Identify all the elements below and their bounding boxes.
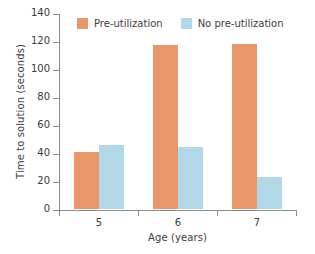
y-tick-label: 20 <box>37 175 50 186</box>
y-tick-label: 140 <box>31 7 50 18</box>
bar-chart-figure: Time to solution (seconds) Age (years) 0… <box>0 0 315 254</box>
y-tick: 140 <box>53 14 59 15</box>
y-tick: 100 <box>53 70 59 71</box>
x-tick-label: 5 <box>79 217 119 228</box>
bar <box>74 152 99 209</box>
x-tick <box>296 210 297 216</box>
x-axis-title: Age (years) <box>60 232 295 243</box>
x-tick-label: 6 <box>158 217 198 228</box>
x-tick-label: 7 <box>237 217 277 228</box>
y-tick-label: 0 <box>44 203 50 214</box>
legend-label: No pre-utilization <box>198 18 284 29</box>
y-tick-label: 120 <box>31 35 50 46</box>
legend-entry: No pre-utilization <box>181 18 284 29</box>
y-axis-title: Time to solution (seconds) <box>15 22 26 202</box>
y-tick-label: 80 <box>37 91 50 102</box>
x-tick <box>59 210 60 216</box>
x-tick <box>138 210 139 216</box>
plot-area: 020406080100120140 567 <box>59 14 296 210</box>
legend-swatch <box>181 18 192 29</box>
bar <box>178 147 203 209</box>
x-axis-line <box>59 210 296 211</box>
y-tick: 40 <box>53 154 59 155</box>
y-axis-line <box>59 14 60 211</box>
y-tick: 120 <box>53 42 59 43</box>
y-tick: 20 <box>53 182 59 183</box>
y-tick-label: 60 <box>37 119 50 130</box>
legend-label: Pre-utilization <box>94 18 163 29</box>
bar <box>99 145 124 209</box>
bar <box>257 177 282 209</box>
legend-swatch <box>77 18 88 29</box>
y-tick: 60 <box>53 126 59 127</box>
legend-entry: Pre-utilization <box>77 18 163 29</box>
bar <box>153 45 178 209</box>
y-tick-label: 40 <box>37 147 50 158</box>
y-tick-label: 100 <box>31 63 50 74</box>
y-tick: 80 <box>53 98 59 99</box>
chart-legend: Pre-utilizationNo pre-utilization <box>77 18 284 29</box>
x-tick <box>217 210 218 216</box>
bar <box>232 44 257 209</box>
